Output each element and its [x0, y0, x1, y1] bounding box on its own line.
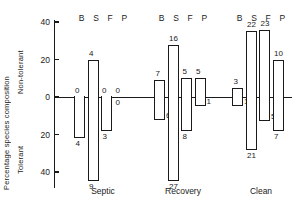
bar-value-tolerant-F: 8 [183, 133, 187, 141]
group-label: Recovery [152, 186, 214, 196]
bar-tolerant-B [74, 96, 85, 138]
bar-value-nontolerant-P: 10 [274, 50, 283, 58]
bar-value-tolerant-P: 7 [274, 133, 278, 141]
bar-value-nontolerant-F: 23 [261, 20, 270, 28]
bar-value-nontolerant-S: 4 [89, 50, 93, 58]
bar-nontolerant-S [168, 45, 179, 99]
bar-nontolerant-P [273, 60, 284, 99]
bar-group-recovery: B S F PRecovery7616275851 [152, 0, 214, 204]
y-tick [54, 134, 59, 135]
group-label: Septic [72, 186, 134, 196]
bar-tolerant-S [246, 96, 257, 150]
bar-tolerant-F [101, 96, 112, 131]
bar-tolerant-S [88, 96, 99, 181]
bar-tolerant-F [259, 96, 270, 121]
bar-tolerant-S [168, 96, 179, 181]
bar-value-nontolerant-P: 0 [116, 87, 120, 95]
bar-tolerant-P [273, 96, 284, 131]
y-tick [54, 21, 59, 22]
bar-value-nontolerant-F: 5 [183, 68, 187, 76]
y-tick [54, 96, 59, 97]
group-label: Clean [230, 186, 292, 196]
chart-root: Percentage species composition Non-toler… [0, 0, 300, 204]
y-tick-label: 0 [30, 92, 50, 102]
taxa-code-header: B S F P [152, 13, 214, 23]
bar-nontolerant-S [246, 31, 257, 98]
y-axis-line [54, 20, 55, 188]
taxa-code-header: B S F P [72, 13, 134, 23]
bar-value-tolerant-S: 27 [169, 183, 178, 191]
bar-value-tolerant-P: 0 [116, 99, 120, 107]
bar-nontolerant-F [259, 30, 270, 99]
y-tick-label: 20 [30, 130, 50, 140]
bar-value-tolerant-B: 4 [76, 140, 80, 148]
bar-value-tolerant-S: 21 [247, 152, 256, 160]
y-tick-label: 40 [30, 167, 50, 177]
y-tick-label: 20 [30, 55, 50, 65]
y-axis-upper-label: Non-tolerant [16, 22, 25, 94]
bar-value-nontolerant-P: 5 [196, 68, 200, 76]
y-axis-title: Percentage species composition [2, 30, 11, 190]
y-tick-label: 40 [30, 17, 50, 27]
bar-value-nontolerant-B: 3 [234, 78, 238, 86]
bar-group-clean: B S F PClean312221235107 [230, 0, 292, 204]
bar-group-septic: B S F PSeptic04490300 [72, 0, 134, 204]
y-tick [54, 59, 59, 60]
bar-value-tolerant-S: 9 [89, 183, 93, 191]
bar-value-nontolerant-S: 16 [169, 35, 178, 43]
bar-value-nontolerant-F: 0 [102, 87, 106, 95]
bar-value-nontolerant-S: 22 [247, 21, 256, 29]
bar-tolerant-B [154, 96, 165, 120]
bar-value-nontolerant-B: 7 [156, 70, 160, 78]
bar-tolerant-F [181, 96, 192, 131]
y-tick [54, 171, 59, 172]
bar-tolerant-P [195, 96, 206, 106]
bar-value-tolerant-P: 1 [207, 98, 211, 106]
y-axis-lower-label: Tolerant [16, 112, 25, 174]
bar-value-tolerant-F: 3 [103, 133, 107, 141]
bar-nontolerant-S [88, 60, 99, 99]
bar-value-nontolerant-B: 0 [75, 87, 79, 95]
bar-tolerant-B [232, 96, 243, 106]
